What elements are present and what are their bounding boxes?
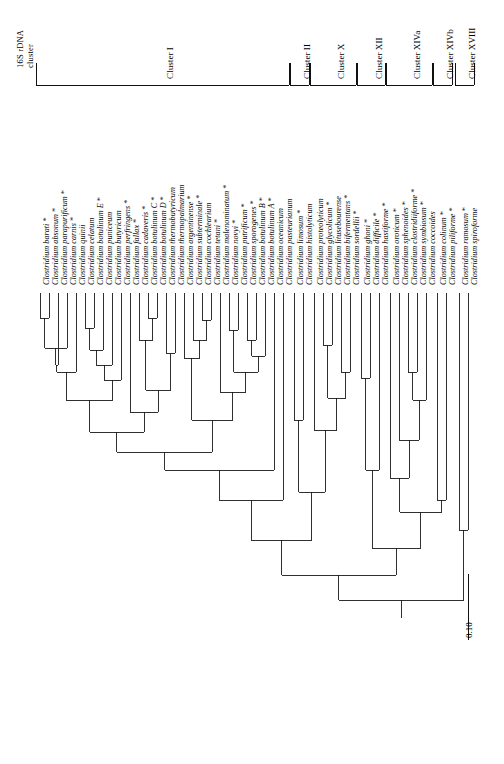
phylogenetic-tree-graphic xyxy=(0,0,504,764)
scale-bar-label: 0.10 xyxy=(464,622,474,638)
figure-canvas: 16S rDNA cluster Cluster ICluster IIClus… xyxy=(0,0,504,764)
